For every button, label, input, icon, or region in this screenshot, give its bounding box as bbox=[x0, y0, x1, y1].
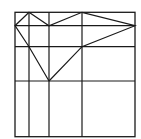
grid-diagram bbox=[0, 0, 141, 139]
outer-frame bbox=[15, 12, 135, 136]
